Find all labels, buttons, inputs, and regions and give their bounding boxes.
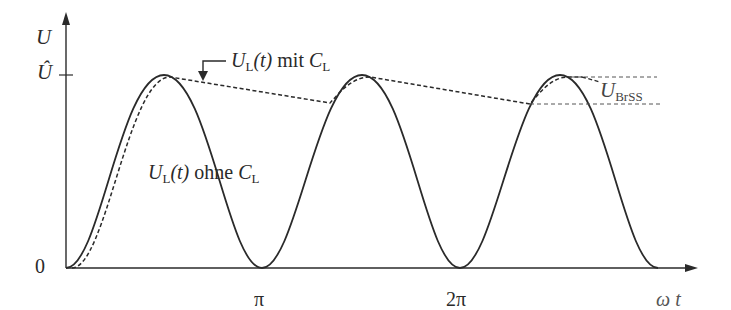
x-axis-arrow-icon bbox=[685, 264, 698, 272]
mit-text: mit bbox=[272, 49, 309, 71]
x-axis-t: t bbox=[675, 288, 681, 310]
ohne-c: C bbox=[238, 161, 251, 183]
mit-c: C bbox=[309, 49, 322, 71]
mit-c-sub: L bbox=[322, 59, 330, 74]
x-axis-omega: ω bbox=[656, 288, 670, 310]
u-hat-label: Û bbox=[37, 62, 52, 83]
ohne-text: ohne bbox=[189, 161, 238, 183]
y-axis-label: U bbox=[36, 27, 51, 48]
callout-arrow-icon bbox=[198, 71, 208, 81]
pi-tick-label: π bbox=[254, 289, 264, 309]
mit-u-sub: L bbox=[245, 59, 253, 74]
ohne-u: U bbox=[148, 161, 162, 183]
y-axis-arrow-icon bbox=[62, 12, 70, 25]
x-axis-label: ω t bbox=[656, 289, 681, 309]
mit-u: U bbox=[231, 49, 245, 71]
y-axis-label-text: U bbox=[36, 25, 51, 49]
ohne-u-sub: L bbox=[162, 171, 170, 186]
two-pi-tick-label: 2π bbox=[446, 289, 466, 309]
mit-cl-callout bbox=[198, 61, 226, 81]
u-hat-label-text: Û bbox=[37, 60, 52, 84]
axes bbox=[59, 12, 698, 272]
zero-label: 0 bbox=[35, 256, 45, 276]
ripple-sub: BrSS bbox=[615, 89, 642, 104]
rectifier-waveform-diagram bbox=[0, 0, 731, 310]
ohne-t: (t) bbox=[170, 161, 189, 183]
ohne-c-sub: L bbox=[252, 171, 260, 186]
mit-t: (t) bbox=[253, 49, 272, 71]
ohne-cl-annotation: UL(t) ohne CL bbox=[148, 162, 259, 182]
ripple-u: U bbox=[600, 78, 615, 102]
mit-cl-annotation: UL(t) mit CL bbox=[231, 50, 330, 70]
ripple-label-tail bbox=[582, 77, 600, 82]
ripple-voltage-label: UBrSS bbox=[600, 80, 643, 101]
